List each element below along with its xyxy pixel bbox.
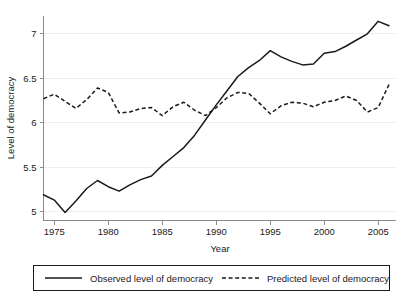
- y-axis-ticks: 55.566.57: [23, 28, 43, 217]
- legend-label-predicted: Predicted level of democracy: [267, 273, 389, 284]
- y-tick-label: 7: [31, 28, 36, 39]
- x-tick-label: 1985: [152, 226, 173, 237]
- chart-legend: Observed level of democracy Predicted le…: [34, 266, 390, 291]
- x-tick-label: 1995: [260, 226, 281, 237]
- y-tick-label: 6.5: [23, 73, 36, 84]
- series-line-predicted: [44, 84, 390, 115]
- x-tick-label: 2005: [368, 226, 389, 237]
- y-tick-label: 5: [31, 206, 36, 217]
- chart-figure: 55.566.57 1975198019851990199520002005 L…: [0, 0, 401, 297]
- x-axis-ticks: 1975198019851990199520002005: [44, 221, 389, 237]
- gridlines: [44, 34, 397, 212]
- y-tick-label: 5.5: [23, 162, 36, 173]
- series-line-observed: [44, 21, 390, 212]
- x-tick-label: 1975: [44, 226, 65, 237]
- line-chart: 55.566.57 1975198019851990199520002005 L…: [0, 0, 401, 297]
- x-tick-label: 1980: [98, 226, 119, 237]
- y-axis-title: Level of democracy: [5, 77, 16, 160]
- legend-label-observed: Observed level of democracy: [90, 273, 213, 284]
- x-axis-title: Year: [210, 243, 229, 254]
- x-tick-label: 2000: [314, 226, 335, 237]
- x-tick-label: 1990: [206, 226, 227, 237]
- y-tick-label: 6: [31, 117, 36, 128]
